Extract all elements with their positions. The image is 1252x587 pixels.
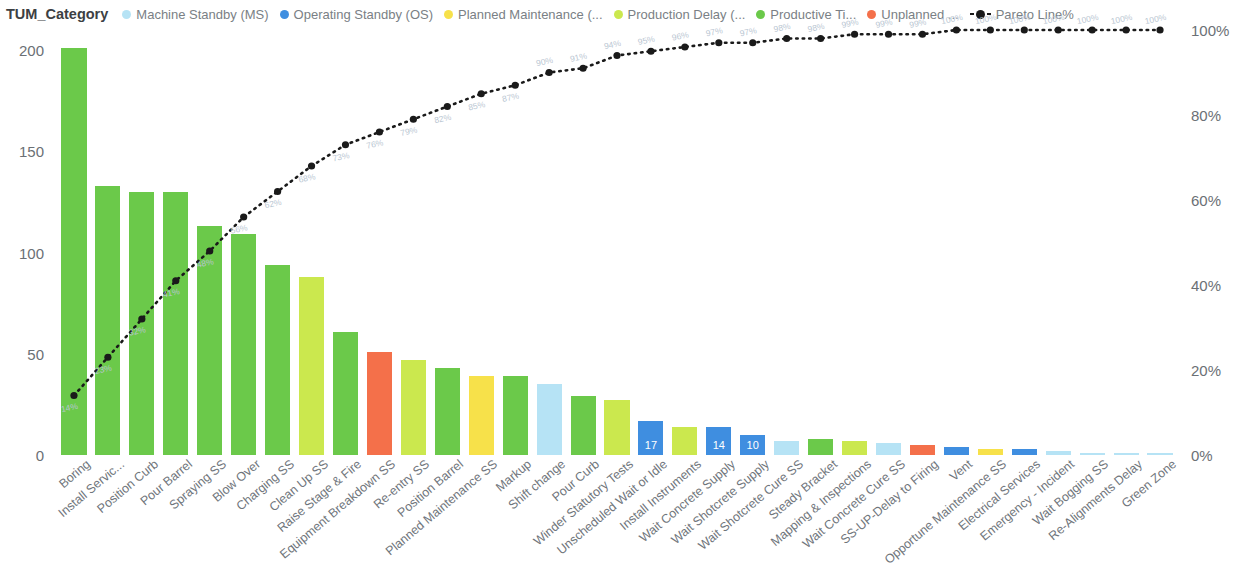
pareto-point[interactable] [240,213,247,220]
pareto-point-label: 95% [637,34,656,47]
legend-item[interactable]: Production Delay (... [614,7,746,22]
pareto-point[interactable] [70,392,77,399]
pareto-point[interactable] [172,277,179,284]
pareto-point-label: 14% [60,401,79,414]
pareto-point[interactable] [376,128,383,135]
legend-swatch-icon [122,10,131,19]
y-axis-right-tick: 80% [1191,107,1221,124]
y-axis-right: 100%80%60%40%20%0% [1183,30,1249,455]
pareto-point-label: 62% [264,197,283,210]
pareto-point[interactable] [851,31,858,38]
pareto-point[interactable] [885,31,892,38]
pareto-point-label: 79% [399,125,418,138]
pareto-point[interactable] [1156,26,1163,33]
legend-item-label: Planned Maintenance (... [458,7,603,22]
pareto-point-label: 76% [365,137,384,150]
pareto-point[interactable] [715,39,722,46]
pareto-point[interactable] [1055,26,1062,33]
legend-swatch-icon [756,10,765,19]
pareto-point[interactable] [342,141,349,148]
legend-title: TUM_Category [6,6,108,22]
pareto-point-label: 96% [671,29,690,42]
pareto-point-label: 90% [535,55,554,68]
y-axis-right-tick: 100% [1191,22,1229,39]
legend-item[interactable]: Machine Standby (MS) [122,7,268,22]
pareto-point[interactable] [206,247,213,254]
pareto-point[interactable] [579,65,586,72]
pareto-point-label: 23% [94,363,113,376]
pareto-point[interactable] [478,90,485,97]
pareto-point[interactable] [546,69,553,76]
pareto-point-label: 41% [162,286,181,299]
y-axis-left-tick: 0 [36,447,44,464]
pareto-point[interactable] [749,39,756,46]
x-axis-category-labels: BoringInstall Servic...Position CurbPour… [57,457,1177,587]
legend-swatch-icon [614,10,623,19]
pareto-point[interactable] [783,35,790,42]
pareto-point-label: 97% [705,25,724,38]
y-axis-left: 200150100500 [0,30,50,455]
legend-swatch-icon [444,10,453,19]
pareto-point[interactable] [138,315,145,322]
pareto-point-label: 87% [501,91,520,104]
pareto-point[interactable] [681,43,688,50]
pareto-point-label: 85% [467,99,486,112]
y-axis-left-tick: 200 [19,42,44,59]
legend-item-label: Operating Standby (OS) [294,7,433,22]
pareto-point[interactable] [647,48,654,55]
pareto-chart: TUM_Category Machine Standby (MS)Operati… [0,0,1252,587]
y-axis-left-tick: 50 [27,345,44,362]
pareto-point[interactable] [274,188,281,195]
pareto-point[interactable] [1122,26,1129,33]
pareto-point[interactable] [512,82,519,89]
y-axis-right-tick: 0% [1191,447,1213,464]
legend-swatch-icon [280,10,289,19]
legend-item[interactable]: Planned Maintenance (... [444,7,603,22]
pareto-point-label: 82% [433,112,452,125]
pareto-point-label: 91% [569,51,588,64]
plot-area: 171410 14%23%32%41%48%56%62%68%73%76%79%… [57,30,1177,455]
pareto-point[interactable] [953,26,960,33]
pareto-point-label: 56% [230,222,249,235]
y-axis-right-tick: 60% [1191,192,1221,209]
y-axis-right-tick: 40% [1191,277,1221,294]
legend-item[interactable]: Operating Standby (OS) [280,7,433,22]
y-axis-left-tick: 150 [19,143,44,160]
pareto-point[interactable] [104,354,111,361]
legend-item-label: Machine Standby (MS) [136,7,268,22]
pareto-point-label: 97% [739,25,758,38]
pareto-point-label: 94% [603,38,622,51]
pareto-point[interactable] [410,116,417,123]
pareto-point[interactable] [613,52,620,59]
pareto-point[interactable] [1089,26,1096,33]
legend-swatch-icon [867,10,876,19]
pareto-line-series: 14%23%32%41%48%56%62%68%73%76%79%82%85%8… [57,30,1177,455]
legend-item-label: Production Delay (... [628,7,746,22]
pareto-point-label: 32% [128,324,147,337]
pareto-point[interactable] [987,26,994,33]
pareto-line-path [74,30,1160,396]
pareto-point[interactable] [1021,26,1028,33]
y-axis-left-tick: 100 [19,244,44,261]
pareto-point[interactable] [919,31,926,38]
pareto-point[interactable] [308,162,315,169]
pareto-point[interactable] [444,103,451,110]
pareto-point-label: 48% [196,256,215,269]
y-axis-right-tick: 20% [1191,362,1221,379]
pareto-point[interactable] [817,35,824,42]
